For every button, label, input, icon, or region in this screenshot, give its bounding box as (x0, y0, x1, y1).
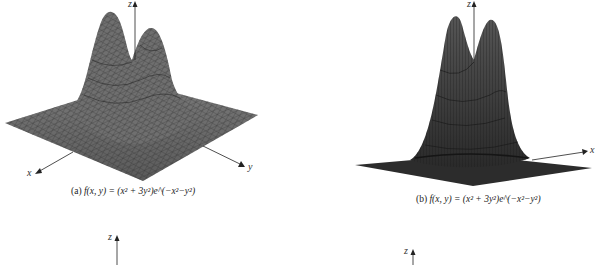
bottom-axis-right (411, 249, 416, 265)
caption-b-prefix: (b) (416, 194, 427, 204)
caption-a: (a) f(x, y) = (x² + 3y²)e^(−x²−y²) (71, 186, 195, 196)
x-label-a: x (27, 167, 31, 178)
x-label-b: x (590, 144, 594, 155)
surface-plot-b (355, 1, 592, 186)
x-axis-a (38, 152, 73, 172)
z-label-bottom-right: z (404, 245, 408, 256)
figure-canvas (0, 0, 598, 265)
y-label-a: y (248, 161, 252, 172)
caption-b-formula: f(x, y) = (x² + 3y²)e^(−x²−y²) (429, 194, 540, 204)
bottom-axis-left (115, 235, 120, 265)
caption-a-formula: f(x, y) = (x² + 3y²)e^(−x²−y²) (84, 186, 195, 196)
surface-plot-a (5, 1, 258, 181)
z-label-a: z (128, 0, 132, 9)
z-label-b: z (467, 0, 471, 9)
caption-a-prefix: (a) (71, 186, 82, 196)
z-label-bottom-left: z (108, 231, 112, 242)
y-axis-a (203, 146, 242, 165)
x-axis-b (532, 152, 584, 160)
caption-b: (b) f(x, y) = (x² + 3y²)e^(−x²−y²) (416, 194, 541, 204)
